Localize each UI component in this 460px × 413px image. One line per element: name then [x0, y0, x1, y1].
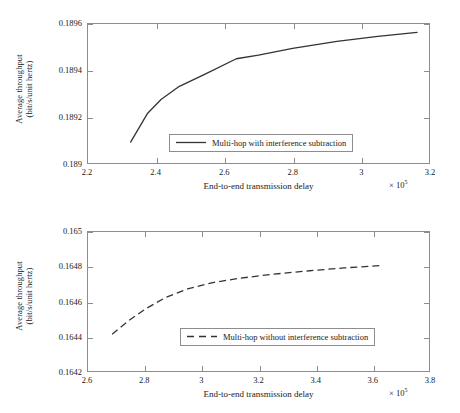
exponent-prefix: × 10: [389, 180, 404, 190]
x-tick-label: 2.8: [287, 168, 298, 177]
x-tick-label: 3.8: [425, 376, 436, 385]
x-tick-label: 2.2: [82, 168, 93, 177]
figure-container: Average throughput (bit/s/unit hertz) 0.…: [0, 0, 460, 413]
x-tick-label: 2.6: [219, 168, 230, 177]
x-tick-label: 3: [199, 376, 203, 385]
legend-label: Multi-hop without interference subtracti…: [223, 332, 368, 342]
legend-line-sample-solid: [176, 138, 206, 147]
x-tick-label: 3.6: [367, 376, 378, 385]
legend-top[interactable]: Multi-hop with interference subtraction: [169, 134, 353, 152]
data-curve-bottom: [88, 232, 429, 371]
x-tick-label: 3.2: [253, 376, 264, 385]
x-axis-exponent-bottom: × 105: [389, 387, 407, 398]
chart-panel-top: Average throughput (bit/s/unit hertz) 0.…: [0, 0, 460, 206]
x-tick-label: 2.4: [150, 168, 161, 177]
plot-area-bottom: [87, 231, 430, 372]
exponent-power: 5: [404, 387, 407, 393]
legend-line-sample-dashed: [187, 332, 217, 341]
chart-panel-bottom: Average throughput (bit/s/unit hertz) 0.…: [0, 207, 460, 413]
x-axis-exponent-top: × 105: [389, 179, 407, 190]
x-axis-title-top: End-to-end transmission delay: [87, 181, 430, 191]
x-tick-label: 3.4: [310, 376, 321, 385]
exponent-prefix: × 10: [389, 388, 404, 398]
x-tick-label: 2.6: [82, 376, 93, 385]
x-tick-label: 3.2: [425, 168, 436, 177]
x-axis-title-bottom: End-to-end transmission delay: [87, 389, 430, 399]
legend-label: Multi-hop with interference subtraction: [212, 138, 346, 148]
exponent-power: 5: [404, 179, 407, 185]
legend-bottom[interactable]: Multi-hop without interference subtracti…: [180, 328, 375, 346]
x-tick-label: 3: [359, 168, 363, 177]
x-tick-label: 2.8: [139, 376, 150, 385]
